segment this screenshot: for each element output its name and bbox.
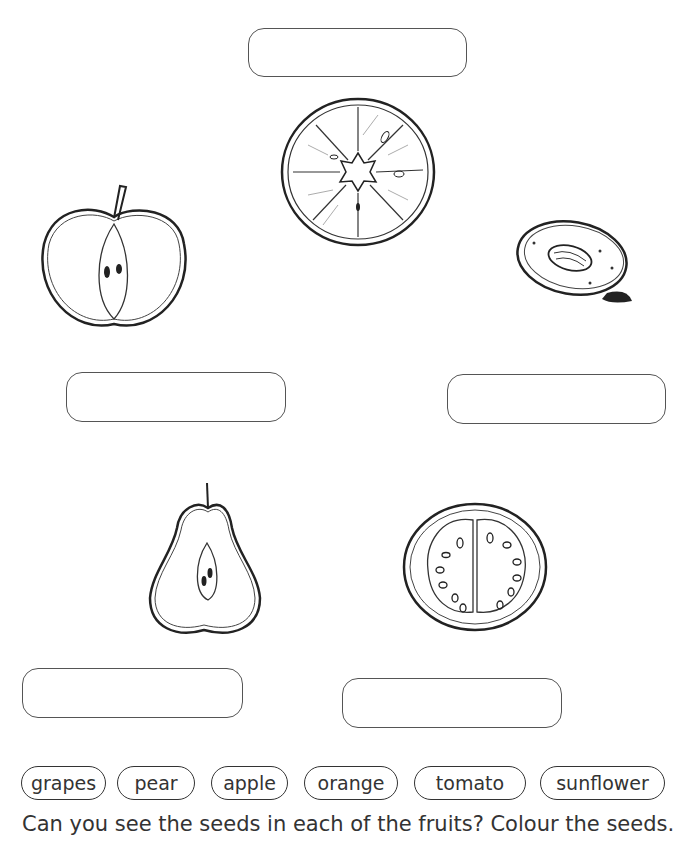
word-pear[interactable]: pear bbox=[117, 766, 195, 800]
label-box-apple[interactable] bbox=[66, 372, 286, 422]
word-apple[interactable]: apple bbox=[211, 766, 288, 800]
instruction-text: Can you see the seeds in each of the fru… bbox=[22, 812, 674, 836]
word-tomato[interactable]: tomato bbox=[414, 766, 526, 800]
word-sunflower[interactable]: sunflower bbox=[540, 766, 665, 800]
label-box-pear[interactable] bbox=[22, 668, 243, 718]
apple-illustration bbox=[34, 184, 194, 344]
tomato-illustration bbox=[400, 500, 550, 635]
plum-illustration bbox=[512, 213, 637, 308]
word-grapes[interactable]: grapes bbox=[21, 766, 106, 800]
orange-illustration bbox=[278, 95, 438, 250]
word-orange[interactable]: orange bbox=[304, 766, 398, 800]
label-box-plum[interactable] bbox=[447, 374, 666, 424]
label-box-orange[interactable] bbox=[248, 28, 467, 77]
pear-illustration bbox=[142, 478, 267, 648]
label-box-tomato[interactable] bbox=[342, 678, 562, 728]
